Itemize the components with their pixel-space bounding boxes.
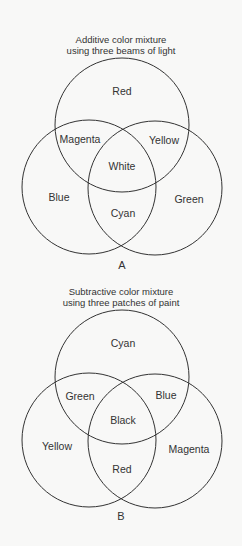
region-b-right-label: Magenta — [169, 443, 210, 455]
region-a-top-left-label: Magenta — [60, 133, 101, 145]
region-a-top-label: Red — [112, 85, 131, 97]
region-b-top-right-label: Blue — [155, 389, 176, 401]
region-b-bottom-label: Red — [112, 463, 131, 475]
region-b-left-label: Yellow — [42, 440, 72, 452]
diagram-b-title-line2: using three patches of paint — [0, 297, 242, 309]
region-a-top-right-label: Yellow — [149, 134, 179, 146]
region-a-bottom-label: Cyan — [111, 207, 136, 219]
region-b-top-left-label: Green — [65, 390, 94, 402]
diagram-a-caption: A — [118, 259, 125, 271]
region-a-center-label: White — [109, 160, 136, 172]
region-b-top-label: Cyan — [111, 337, 136, 349]
region-a-left-label: Blue — [48, 191, 69, 203]
diagram-a-title-line2: using three beams of light — [0, 45, 242, 57]
diagram-b-caption: B — [117, 510, 124, 522]
region-a-right-label: Green — [174, 193, 203, 205]
region-b-center-label: Black — [110, 414, 136, 426]
